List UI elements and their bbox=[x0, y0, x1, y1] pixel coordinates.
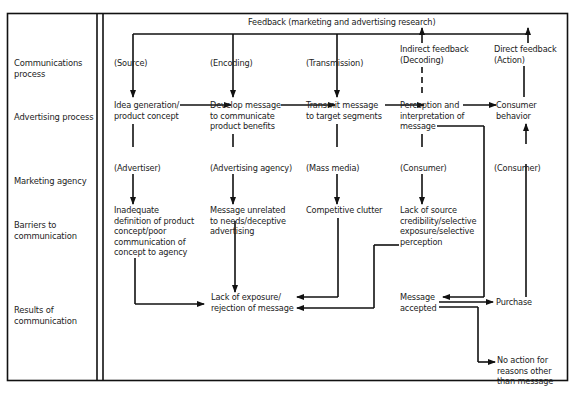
label-direct-feedback: Direct feedback (Action) bbox=[494, 44, 556, 65]
node-transmit-message: Transmit message to target segments bbox=[306, 100, 382, 121]
result-purchase: Purchase bbox=[496, 297, 532, 308]
barrier-inadequate-definition: Inadequate definition of product concept… bbox=[114, 205, 194, 258]
label-encoding: (Encoding) bbox=[210, 58, 253, 69]
label-indirect-feedback: Indirect feedback (Decoding) bbox=[400, 44, 469, 65]
row-label-advertising: Advertising process bbox=[14, 112, 93, 123]
result-message-accepted: Message accepted bbox=[400, 292, 437, 313]
label-consumer-1: (Consumer) bbox=[400, 163, 447, 174]
label-consumer-2: (Consumer) bbox=[494, 163, 541, 174]
result-lack-of-exposure: Lack of exposure/ rejection of message bbox=[211, 292, 294, 313]
row-label-barriers: Barriers to communication bbox=[14, 220, 77, 241]
row-label-results: Results of communication bbox=[14, 305, 77, 326]
label-transmission: (Transmission) bbox=[306, 58, 363, 69]
row-label-communications: Communications process bbox=[14, 58, 82, 79]
node-develop-message: Develop message to communicate product b… bbox=[210, 100, 281, 132]
label-source: (Source) bbox=[114, 58, 147, 69]
result-no-action: No action for reasons other than message bbox=[497, 355, 553, 387]
diagram-lines bbox=[0, 0, 577, 407]
label-advertiser: (Advertiser) bbox=[114, 163, 161, 174]
barrier-message-unrelated: Message unrelated to needs/deceptive adv… bbox=[210, 205, 286, 237]
node-perception: Perception and interpretation of message bbox=[400, 100, 464, 132]
label-mass-media: (Mass media) bbox=[306, 163, 359, 174]
barrier-source-credibility: Lack of source credibility/selective exp… bbox=[400, 205, 476, 247]
barrier-competitive-clutter: Competitive clutter bbox=[306, 205, 382, 216]
label-advertising-agency: (Advertising agency) bbox=[210, 163, 292, 174]
row-label-marketing-agency: Marketing agency bbox=[14, 176, 86, 187]
feedback-title: Feedback (marketing and advertising rese… bbox=[248, 17, 435, 28]
node-idea-generation: Idea generation/ product concept bbox=[114, 100, 179, 121]
node-consumer-behavior: Consumer behavior bbox=[496, 100, 537, 121]
